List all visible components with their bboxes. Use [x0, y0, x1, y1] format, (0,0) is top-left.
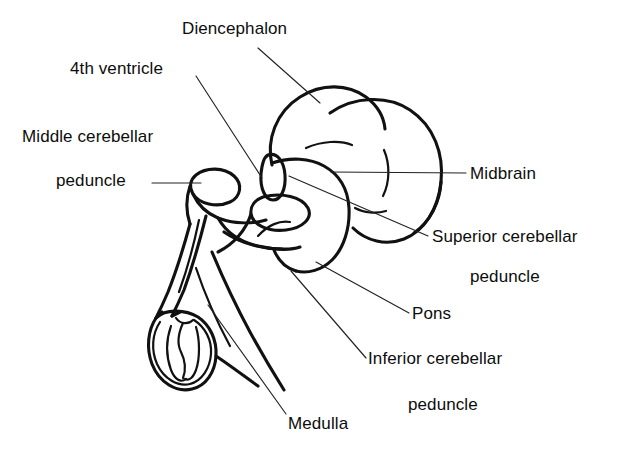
medulla-cut-notch — [176, 318, 193, 323]
leader-line-fourth-ventricle — [196, 76, 262, 178]
brainstem-left-edge — [187, 186, 190, 224]
medulla-body-edge — [212, 252, 284, 390]
caudal-tail-edge — [216, 356, 258, 386]
label-superior-cerebellar: Superior cerebellar — [432, 228, 578, 245]
cerebellum-upper-fold — [306, 142, 352, 148]
label-inferior-peduncle: peduncle — [408, 396, 478, 413]
leader-line-pons — [316, 262, 409, 313]
label-superior-peduncle: peduncle — [470, 268, 540, 285]
label-pons: Pons — [412, 305, 451, 322]
label-middle-cerebellar: Middle cerebellar — [22, 128, 153, 145]
anatomy-outlines — [149, 87, 442, 390]
leader-line-inferior-cerebellar — [291, 271, 366, 358]
gray-matter-central-column — [179, 323, 185, 378]
gray-matter-right-horn — [185, 327, 199, 380]
label-middle-peduncle: peduncle — [56, 172, 126, 189]
leader-line-diencephalon — [258, 48, 320, 103]
leader-line-superior-cerebellar — [289, 176, 428, 236]
label-diencephalon: Diencephalon — [182, 20, 287, 37]
midbrain-lower-outline — [414, 182, 441, 233]
brainstem-diagram: Diencephalon 4th ventricle Middle cerebe… — [0, 0, 638, 451]
leader-line-midbrain — [331, 172, 466, 173]
cerebellum-inner-fold — [383, 150, 388, 196]
pons-lower-edge — [274, 250, 296, 271]
label-fourth-ventricle: 4th ventricle — [70, 60, 163, 77]
gray-matter-left-horn — [167, 326, 186, 381]
midbrain-lower-fold — [355, 208, 386, 213]
middle-cerebellar-peduncle-oval — [191, 169, 240, 205]
label-medulla: Medulla — [288, 415, 348, 432]
label-midbrain: Midbrain — [470, 165, 536, 182]
inferior-cerebellar-peduncle-oval — [251, 195, 309, 230]
midbrain-lobe-outline — [330, 99, 442, 242]
label-inferior-cerebellar: Inferior cerebellar — [368, 350, 502, 367]
